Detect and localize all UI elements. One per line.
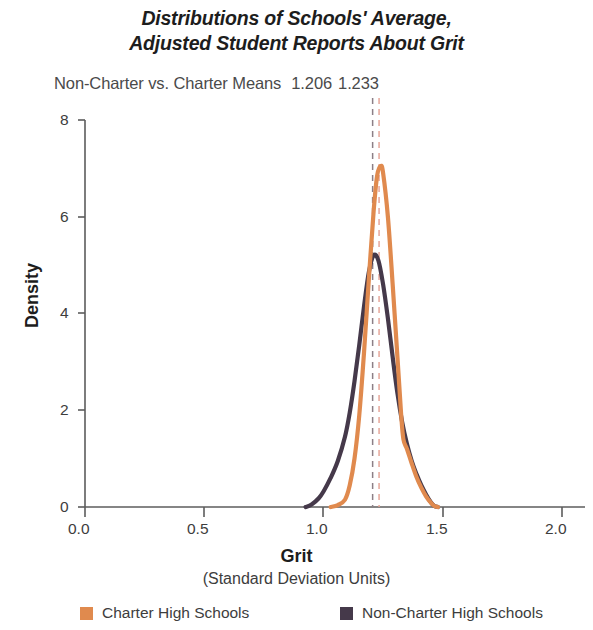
legend-swatch-noncharter-icon — [340, 607, 353, 620]
y-tick-label-4: 8 — [60, 111, 69, 129]
x-tick-label-4: 2.0 — [545, 520, 567, 538]
x-tick-label-1: 0.5 — [187, 520, 209, 538]
chart-figure: Distributions of Schools' Average, Adjus… — [0, 0, 593, 630]
legend-item-noncharter[interactable]: Non-Charter High Schools — [340, 604, 543, 622]
density-curve-noncharter — [306, 255, 438, 507]
x-axis-label: Grit — [0, 546, 593, 567]
legend-label-noncharter: Non-Charter High Schools — [362, 604, 543, 622]
y-axis-label: Density — [22, 236, 43, 356]
y-tick-label-1: 2 — [60, 401, 69, 419]
x-tick-label-2: 1.0 — [306, 520, 328, 538]
y-axis-ticks — [78, 120, 85, 507]
x-tick-label-0: 0.0 — [68, 520, 90, 538]
density-curve-charter — [331, 166, 438, 507]
x-axis-sublabel: (Standard Deviation Units) — [0, 570, 593, 588]
x-axis-ticks — [85, 507, 562, 517]
legend-swatch-charter-icon — [80, 607, 93, 620]
x-tick-label-3: 1.5 — [426, 520, 448, 538]
legend-label-charter: Charter High Schools — [102, 604, 249, 622]
y-tick-label-0: 0 — [60, 498, 69, 516]
chart-legend: Charter High Schools Non-Charter High Sc… — [0, 604, 593, 626]
y-tick-label-3: 6 — [60, 208, 69, 226]
y-tick-label-2: 4 — [60, 304, 69, 322]
legend-item-charter[interactable]: Charter High Schools — [80, 604, 249, 622]
